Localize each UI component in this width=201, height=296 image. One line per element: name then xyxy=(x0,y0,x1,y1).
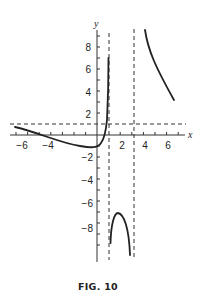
x-tick-label: −4 xyxy=(42,140,54,151)
curve-left-branch xyxy=(15,58,109,147)
y-tick-label: 2 xyxy=(85,109,91,120)
figure-caption: FIG. 10 xyxy=(78,281,118,292)
y-tick-label: −2 xyxy=(82,152,94,163)
x-tick-label: 6 xyxy=(165,140,171,151)
curve-right-branch xyxy=(145,30,174,100)
y-tick-label: 6 xyxy=(85,64,91,75)
y-axis-label: y xyxy=(93,18,99,29)
asymptotes xyxy=(10,29,186,260)
y-tick-label: 8 xyxy=(85,42,91,53)
x-tick-label: 2 xyxy=(119,140,125,151)
figure-canvas: x y −6 −4 2 4 6 8 6 4 2 −2 −4 −6 −8 xyxy=(0,0,201,296)
y-tick-label: 4 xyxy=(85,87,91,98)
curve-middle-branch xyxy=(111,213,131,255)
y-tick-label: −4 xyxy=(82,175,94,186)
x-axis-label: x xyxy=(187,129,193,140)
x-tick-label: 4 xyxy=(142,140,148,151)
x-tick-label: −6 xyxy=(16,140,28,151)
y-tick-label: −6 xyxy=(82,198,94,209)
y-tick-label: −8 xyxy=(82,223,94,234)
